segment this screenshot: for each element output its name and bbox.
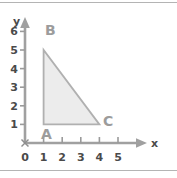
x-axis-arrowhead: [136, 138, 147, 148]
y-tick-label-6: 6: [10, 26, 18, 37]
x-tick-label-5: 5: [114, 152, 122, 163]
x-tick-label-0: 0: [21, 152, 29, 163]
triangle-abc-shape: [44, 50, 100, 124]
x-axis-label: x: [151, 138, 158, 149]
x-tick-label-3: 3: [77, 152, 85, 163]
y-tick-label-1: 1: [10, 119, 18, 130]
vertex-label-c: C: [103, 114, 113, 128]
coordinate-plane-figure: y x 0 1 2 3 4 5 1 2 3 4 5 6 B A C: [0, 0, 177, 178]
y-tick-label-5: 5: [10, 45, 18, 56]
x-tick-label-2: 2: [58, 152, 66, 163]
y-tick-label-2: 2: [10, 100, 18, 111]
vertex-label-a: A: [41, 127, 52, 141]
y-tick-label-4: 4: [10, 63, 18, 74]
vertex-label-b: B: [45, 23, 56, 37]
y-tick-label-3: 3: [10, 82, 18, 93]
x-tick-label-1: 1: [40, 152, 48, 163]
x-tick-label-4: 4: [96, 152, 104, 163]
y-axis-arrowhead: [20, 17, 30, 28]
